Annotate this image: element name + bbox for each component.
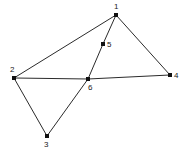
graph-edge xyxy=(116,15,170,75)
graph-node-1 xyxy=(114,13,118,17)
graph-edge xyxy=(14,78,88,79)
graph-node-5 xyxy=(101,42,105,46)
graph-node-label-4: 4 xyxy=(174,72,178,80)
edges-layer xyxy=(14,15,170,136)
graph-node-label-1: 1 xyxy=(114,3,118,11)
graph-node-6 xyxy=(86,77,90,81)
graph-node-label-2: 2 xyxy=(10,66,14,74)
graph-node-label-3: 3 xyxy=(44,141,48,149)
graph-canvas xyxy=(0,0,183,154)
nodes-layer xyxy=(12,13,172,138)
graph-edge xyxy=(14,15,116,78)
graph-node-3 xyxy=(45,134,49,138)
graph-figure: 123456 xyxy=(0,0,183,154)
graph-edge xyxy=(14,78,47,136)
graph-edge xyxy=(88,75,170,79)
graph-node-label-5: 5 xyxy=(107,41,111,49)
graph-node-4 xyxy=(168,73,172,77)
graph-edge xyxy=(88,44,103,79)
graph-node-2 xyxy=(12,76,16,80)
graph-node-label-6: 6 xyxy=(88,84,92,92)
graph-edge xyxy=(47,79,88,136)
